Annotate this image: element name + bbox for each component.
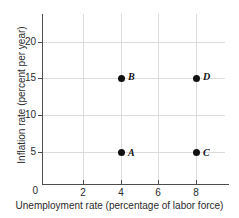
y-axis-title: Inflation rate (percent per year): [16, 15, 28, 175]
x-axis-tick-label-2: 2: [73, 188, 93, 198]
x-axis-tick-label-4: 4: [111, 188, 131, 198]
x-axis-tick: [121, 180, 122, 185]
y-axis-tick: [38, 115, 43, 116]
x-axis-tick: [83, 180, 84, 185]
x-axis-tick-label-8: 8: [186, 188, 206, 198]
x-axis-line: [43, 184, 229, 185]
gridline-horizontal: [43, 115, 225, 116]
scatter-chart-figure: A B C D 20 15 10 5 2 4 6 8 0 Unemploymen…: [0, 0, 239, 218]
gridline-horizontal: [43, 42, 225, 43]
data-point-b: [118, 75, 125, 82]
data-point-a: [118, 149, 125, 156]
origin-tick-label-0: 0: [24, 186, 38, 196]
plot-area: A B C D: [43, 14, 225, 184]
x-axis-tick: [158, 180, 159, 185]
data-point-label-a: A: [128, 148, 135, 158]
gridline-vertical: [121, 14, 122, 184]
y-axis-tick: [38, 42, 43, 43]
data-point-label-b: B: [128, 72, 135, 82]
x-axis-tick: [196, 180, 197, 185]
gridline-vertical: [158, 14, 159, 184]
y-axis-tick: [38, 78, 43, 79]
data-point-c: [193, 149, 200, 156]
data-point-label-d: D: [203, 72, 210, 82]
data-point-label-c: C: [203, 148, 210, 158]
x-axis-tick-label-6: 6: [148, 188, 168, 198]
x-axis-title: Unemployment rate (percentage of labor f…: [0, 200, 239, 212]
gridline-vertical: [83, 14, 84, 184]
y-axis-tick: [38, 152, 43, 153]
data-point-d: [193, 75, 200, 82]
gridline-vertical: [196, 14, 197, 184]
y-axis-line: [42, 14, 43, 185]
